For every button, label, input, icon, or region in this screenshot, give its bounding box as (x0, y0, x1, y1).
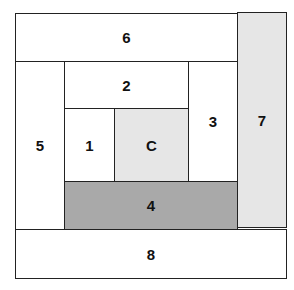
block-label: 1 (85, 137, 93, 154)
block-3: 3 (188, 61, 238, 182)
block-label: 3 (209, 113, 217, 130)
block-5: 5 (15, 61, 65, 230)
block-2: 2 (64, 61, 189, 109)
block-1: 1 (64, 108, 115, 182)
block-label: 5 (36, 137, 44, 154)
block-7: 7 (237, 12, 287, 228)
block-label: 8 (147, 246, 155, 263)
block-6: 6 (15, 13, 238, 62)
block-label: 7 (258, 112, 266, 129)
block-label: 6 (122, 29, 130, 46)
block-4: 4 (64, 181, 238, 230)
block-label: 2 (122, 77, 130, 94)
block-label: 4 (147, 197, 155, 214)
block-8: 8 (15, 229, 287, 279)
block-label: C (146, 137, 157, 154)
block-center: C (114, 108, 189, 182)
